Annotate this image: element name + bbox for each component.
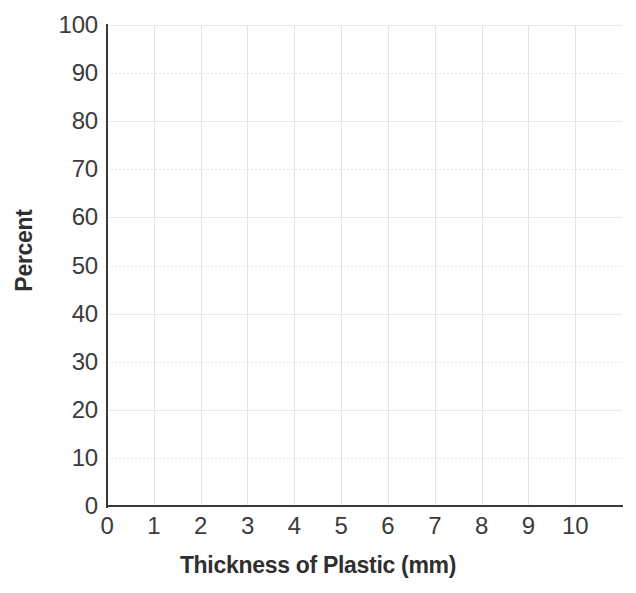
x-axis-line: [106, 505, 623, 507]
gridline-vertical: [294, 25, 295, 506]
gridline-horizontal: [107, 314, 622, 315]
plot-area: [107, 25, 622, 506]
gridline-horizontal: [107, 266, 622, 267]
horizontal-gridlines: [107, 25, 622, 506]
gridline-vertical: [435, 25, 436, 506]
gridline-horizontal: [107, 73, 622, 74]
y-axis-title: Percent: [11, 171, 38, 331]
gridline-vertical: [575, 25, 576, 506]
gridline-vertical: [154, 25, 155, 506]
y-tick-label: 20: [26, 398, 98, 422]
gridline-vertical: [201, 25, 202, 506]
y-tick-label: 90: [26, 61, 98, 85]
gridline-horizontal: [107, 169, 622, 170]
y-tick-label: 100: [26, 13, 98, 37]
gridline-horizontal: [107, 458, 622, 459]
x-tick-label: 10: [545, 514, 605, 538]
gridline-vertical: [247, 25, 248, 506]
x-axis-title: Thickness of Plastic (mm): [0, 552, 636, 579]
gridline-horizontal: [107, 217, 622, 218]
gridline-horizontal: [107, 121, 622, 122]
gridline-horizontal: [107, 410, 622, 411]
gridline-horizontal: [107, 25, 622, 26]
gridline-vertical: [341, 25, 342, 506]
y-tick-label: 10: [26, 446, 98, 470]
gridline-vertical: [482, 25, 483, 506]
gridline-vertical: [528, 25, 529, 506]
y-tick-label: 80: [26, 109, 98, 133]
chart-figure: 0102030405060708090100 012345678910 Perc…: [0, 0, 636, 593]
y-axis-line: [106, 24, 108, 508]
gridline-horizontal: [107, 362, 622, 363]
x-axis-tick-labels: 012345678910: [0, 514, 636, 546]
y-tick-label: 30: [26, 350, 98, 374]
vertical-gridlines: [107, 25, 622, 506]
gridline-vertical: [388, 25, 389, 506]
